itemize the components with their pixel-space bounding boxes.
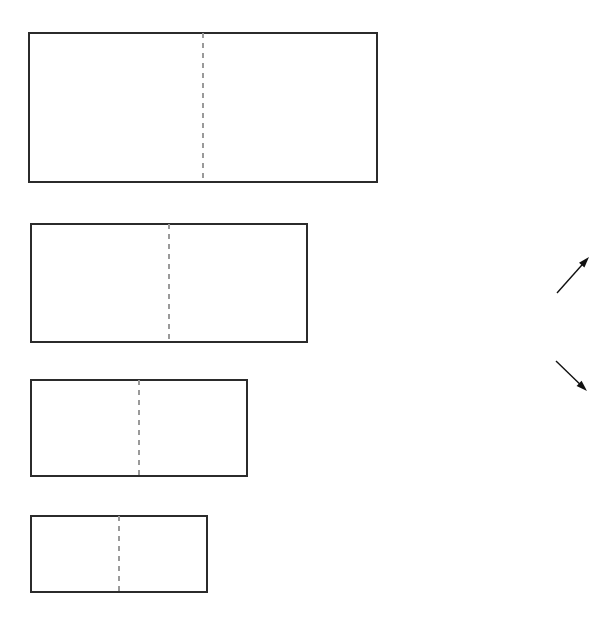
- rectangle-group-4: [31, 516, 207, 592]
- rectangle-group-1: [29, 33, 377, 182]
- arrow-down-right-icon: [556, 361, 587, 391]
- arrow-up-right-shaft: [557, 264, 583, 293]
- figure-canvas: [0, 0, 612, 618]
- arrow-up-right-icon: [557, 257, 589, 293]
- rectangle-group-2: [31, 224, 307, 342]
- rectangle-group-3: [31, 380, 247, 476]
- arrow-down-right-shaft: [556, 361, 581, 385]
- diagram-surface: [0, 0, 612, 618]
